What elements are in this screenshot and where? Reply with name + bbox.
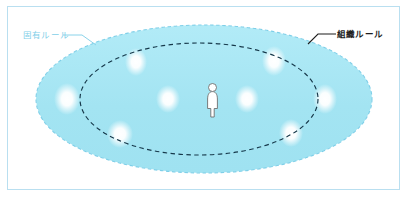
label-inherent-rule: 固有ルール: [23, 31, 69, 40]
dot-node: [279, 119, 303, 147]
dot-node: [54, 83, 80, 115]
person-head-icon: [209, 84, 217, 92]
dot-node: [125, 48, 147, 76]
figure-root: 固有ルール 組織ルール: [0, 0, 408, 198]
dot-node: [156, 85, 180, 113]
dot-node: [262, 46, 286, 76]
dot-node: [313, 84, 337, 114]
dot-node: [107, 120, 133, 148]
label-organization-rule: 組織ルール: [337, 30, 383, 39]
dot-node: [235, 85, 259, 113]
